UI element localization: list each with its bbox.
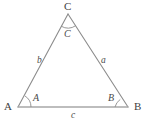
angle-label-a: A bbox=[33, 93, 39, 103]
angle-arc-b bbox=[115, 99, 120, 107]
angle-label-c: C bbox=[64, 29, 71, 39]
side-label-c: c bbox=[71, 111, 75, 121]
vertex-label-b: B bbox=[134, 101, 141, 112]
side-label-b: b bbox=[37, 56, 42, 66]
angle-arc-a bbox=[25, 96, 31, 107]
side-label-a: a bbox=[101, 56, 106, 66]
side-a-line bbox=[68, 14, 128, 107]
vertex-label-c: C bbox=[64, 1, 71, 12]
vertex-label-a: A bbox=[4, 101, 12, 112]
triangle-figure: A B C A B C a b c bbox=[0, 0, 150, 123]
side-b-line bbox=[18, 14, 68, 107]
angle-label-b: B bbox=[108, 93, 114, 103]
triangle-drawing bbox=[0, 0, 150, 123]
